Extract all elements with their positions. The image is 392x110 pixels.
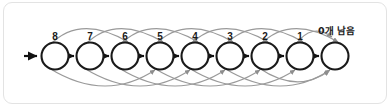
- node-n7[interactable]: [77, 43, 104, 70]
- remaining-count-label: 0개 남음: [318, 25, 355, 36]
- node-n6[interactable]: [112, 43, 139, 70]
- node-label-n7: 7: [87, 31, 93, 42]
- node-n5[interactable]: [147, 43, 174, 70]
- node-n8[interactable]: [42, 43, 69, 70]
- node-n2[interactable]: [252, 43, 279, 70]
- node-label-n3: 3: [227, 31, 233, 42]
- node-n3[interactable]: [217, 43, 244, 70]
- node-label-n5: 5: [157, 31, 163, 42]
- lower-arc-n3-n0: [224, 68, 330, 86]
- node-label-n2: 2: [262, 31, 268, 42]
- node-label-n8: 8: [52, 31, 58, 42]
- node-n1[interactable]: [287, 43, 314, 70]
- node-label-n4: 4: [192, 31, 198, 42]
- node-label-n6: 6: [122, 31, 128, 42]
- node-n0[interactable]: [322, 43, 349, 70]
- node-group: [42, 43, 349, 70]
- state-chain-diagram: 8 7 6 5 4 3 2 1 0개 남음: [0, 0, 392, 110]
- node-n4[interactable]: [182, 43, 209, 70]
- node-label-n1: 1: [297, 31, 303, 42]
- lower-arc-group: [49, 68, 330, 86]
